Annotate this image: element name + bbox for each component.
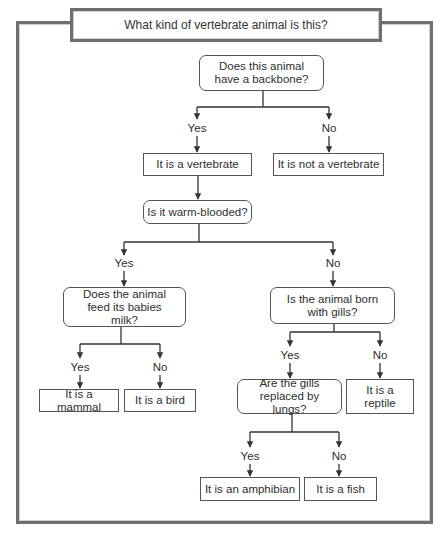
edge-label-no: No — [373, 349, 388, 361]
edge-label-no: No — [326, 257, 341, 269]
edge-label-yes: Yes — [71, 361, 90, 373]
edge-label-yes: Yes — [241, 450, 260, 462]
question-lungs: Are the gills replaced by lungs? — [237, 379, 342, 414]
edge-label-no: No — [322, 122, 337, 134]
edge-label-yes: Yes — [281, 349, 300, 361]
result-bird: It is a bird — [124, 389, 196, 412]
question-gills: Is the animal born with gills? — [270, 287, 395, 324]
question-backbone: Does this animal have a backbone? — [199, 55, 324, 91]
edge-label-yes: Yes — [115, 257, 134, 269]
edge-label-no: No — [153, 361, 168, 373]
result-fish: It is a fish — [304, 477, 377, 501]
result-amphibian: It is an amphibian — [200, 477, 300, 501]
question-warm-blooded: Is it warm-blooded? — [143, 200, 252, 224]
result-mammal: It is a mammal — [39, 389, 119, 412]
result-reptile: It is a reptile — [346, 379, 414, 414]
result-not-vertebrate: It is not a vertebrate — [273, 153, 384, 176]
edge-label-yes: Yes — [188, 122, 207, 134]
result-vertebrate: It is a vertebrate — [143, 153, 252, 176]
question-milk: Does the animal feed its babies milk? — [63, 287, 186, 327]
edge-label-no: No — [332, 450, 347, 462]
